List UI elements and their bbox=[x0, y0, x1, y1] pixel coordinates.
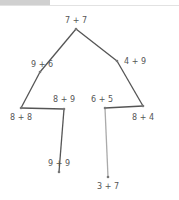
node-label: 7 + 7 bbox=[65, 16, 87, 25]
labels: 7 + 79 + 64 + 98 + 88 + 96 + 58 + 49 + 9… bbox=[10, 16, 154, 191]
node-label: 3 + 7 bbox=[97, 182, 119, 191]
nodes bbox=[20, 28, 145, 179]
node-dot bbox=[104, 107, 107, 110]
node-label: 8 + 9 bbox=[53, 95, 75, 104]
node-label: 4 + 9 bbox=[124, 57, 146, 66]
edges bbox=[21, 29, 143, 177]
node-dot bbox=[58, 171, 61, 174]
node-dot bbox=[39, 71, 42, 74]
node-dot bbox=[63, 108, 66, 111]
edge bbox=[76, 29, 117, 61]
node-label: 8 + 4 bbox=[132, 113, 154, 122]
node-label: 9 + 9 bbox=[48, 159, 70, 168]
edge bbox=[105, 106, 143, 108]
node-label: 6 + 5 bbox=[91, 95, 113, 104]
node-dot bbox=[20, 107, 23, 110]
node-dot bbox=[75, 28, 78, 31]
node-label: 8 + 8 bbox=[10, 113, 32, 122]
node-dot bbox=[107, 176, 110, 179]
edge bbox=[117, 61, 143, 106]
node-dot bbox=[142, 105, 145, 108]
expression-tree-diagram: 7 + 79 + 64 + 98 + 88 + 96 + 58 + 49 + 9… bbox=[0, 0, 179, 200]
node-label: 9 + 6 bbox=[31, 60, 53, 69]
edge bbox=[21, 72, 40, 108]
edge bbox=[21, 108, 64, 109]
edge bbox=[105, 108, 108, 177]
node-dot bbox=[116, 60, 119, 63]
